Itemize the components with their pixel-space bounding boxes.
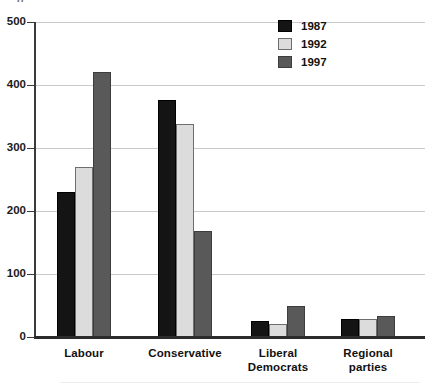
y-axis-tick-mark	[27, 211, 35, 212]
bar	[176, 124, 194, 337]
bar	[75, 167, 93, 337]
y-axis-tick-mark	[27, 85, 35, 86]
bar	[359, 319, 377, 337]
y-axis-tick-mark	[27, 148, 35, 149]
legend-item: 1997	[278, 53, 378, 70]
legend-color-swatch	[278, 38, 292, 50]
legend-label: 1992	[301, 38, 327, 50]
legend-color-swatch	[278, 20, 292, 32]
y-axis-labels: 5004003002001000	[0, 0, 26, 390]
x-axis-line	[34, 336, 425, 339]
y-axis-tick-label: 300	[0, 142, 26, 153]
y-axis-line	[34, 22, 36, 338]
bar	[341, 319, 359, 337]
bar-chart-screenshot: g 5004003002001000 LabourConservativeLib…	[0, 0, 435, 390]
bar-group	[57, 22, 111, 337]
legend-label: 1997	[301, 56, 327, 68]
bar	[57, 192, 75, 337]
bar	[287, 306, 305, 338]
y-axis-tick-label: 0	[0, 331, 26, 342]
legend-label: 1987	[301, 20, 327, 32]
label-line-1: Regional	[303, 346, 433, 360]
legend-item: 1992	[278, 35, 378, 52]
legend-color-swatch	[278, 56, 292, 68]
bar	[158, 100, 176, 338]
y-axis-tick-label: 100	[0, 268, 26, 279]
y-axis-tick-mark	[27, 337, 35, 338]
y-axis-tick-label: 500	[0, 16, 26, 27]
legend-item: 1987	[278, 17, 378, 34]
bar	[93, 72, 111, 337]
y-axis-tick-label: 200	[0, 205, 26, 216]
y-axis-tick-mark	[27, 22, 35, 23]
scan-artifact-line	[60, 382, 420, 383]
bar	[377, 316, 395, 337]
y-axis-tick-label: 400	[0, 79, 26, 90]
label-line-2: parties	[303, 360, 433, 374]
x-axis-category-label: Regionalparties	[303, 346, 433, 374]
bar	[251, 321, 269, 337]
bar	[194, 231, 212, 337]
bar-group	[158, 22, 212, 337]
legend: 198719921997	[278, 17, 378, 71]
y-axis-tick-mark	[27, 274, 35, 275]
